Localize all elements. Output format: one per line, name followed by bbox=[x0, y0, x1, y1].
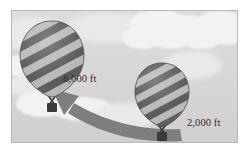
altitude-label-low: 2,000 ft bbox=[187, 117, 220, 128]
balloon-left-basket bbox=[47, 103, 57, 112]
balloon-right-basket bbox=[157, 132, 167, 141]
altitude-label-high: 6,000 ft bbox=[63, 73, 96, 84]
illustration-page: 6,000 ft 2,000 ft bbox=[0, 0, 247, 155]
